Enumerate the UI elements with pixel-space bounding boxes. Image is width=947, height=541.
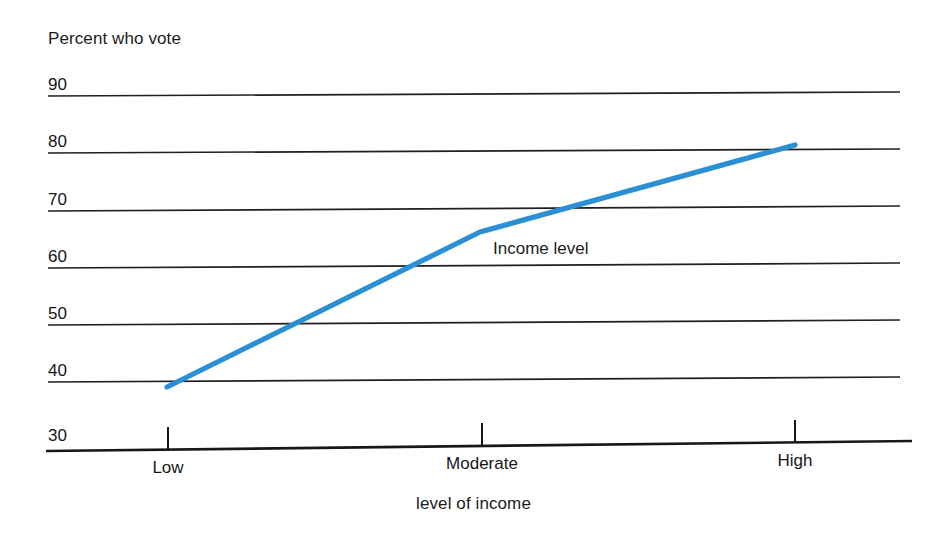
series-annotation-income-level: Income level <box>493 240 588 257</box>
chart-figure: Percent who vote 90 80 70 60 50 40 30 Lo… <box>0 0 947 541</box>
x-tick-label-low: Low <box>152 459 183 476</box>
gridline-70 <box>48 206 900 211</box>
gridline-60 <box>48 263 900 268</box>
y-tick-label-50: 50 <box>48 305 67 322</box>
y-tick-label-40: 40 <box>48 362 67 379</box>
y-tick-label-70: 70 <box>48 191 67 208</box>
x-tick-label-moderate: Moderate <box>446 455 518 472</box>
gridline-50 <box>48 320 900 325</box>
x-axis-title: level of income <box>0 495 947 512</box>
x-axis-line <box>46 441 912 451</box>
y-tick-label-60: 60 <box>48 248 67 265</box>
y-tick-label-80: 80 <box>48 133 67 150</box>
y-tick-label-30: 30 <box>48 427 67 444</box>
y-axis-title: Percent who vote <box>48 30 181 47</box>
y-tick-label-90: 90 <box>48 76 67 93</box>
gridline-90 <box>48 92 900 96</box>
x-tick-label-high: High <box>778 452 813 469</box>
